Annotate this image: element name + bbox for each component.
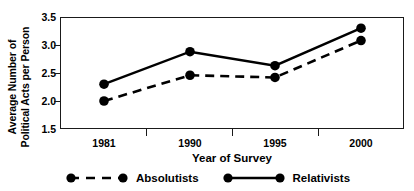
legend-item-relativists: Relativists bbox=[221, 171, 351, 185]
x-tick-mark-1 bbox=[146, 129, 147, 136]
y-tick-label-3: 2.5 bbox=[30, 68, 56, 79]
relativists-point-1990 bbox=[185, 47, 195, 57]
absolutists-point-2000 bbox=[356, 36, 366, 46]
absolutists-point-1995 bbox=[270, 73, 280, 83]
legend-dashed-line-swatch bbox=[64, 171, 130, 185]
y-axis-title-line-1: Average Number of bbox=[6, 17, 19, 157]
plot-series-layer bbox=[60, 17, 404, 129]
legend-item-absolutists: Absolutists bbox=[64, 171, 199, 185]
legend-label-absolutists: Absolutists bbox=[136, 172, 199, 184]
x-tick-mark-2 bbox=[232, 129, 233, 136]
x-tick-label-2000: 2000 bbox=[326, 137, 396, 149]
legend-solid-line-swatch bbox=[221, 171, 287, 185]
relativists-point-1995 bbox=[270, 61, 280, 71]
x-tick-label-1990: 1990 bbox=[155, 137, 225, 149]
y-tick-label-5: 3.5 bbox=[30, 12, 56, 23]
x-tick-mark-3 bbox=[318, 129, 319, 136]
relativists-point-2000 bbox=[356, 23, 366, 33]
relativists-point-1981 bbox=[99, 79, 109, 89]
line-chart-figure: Average Number of Political Acts per Per… bbox=[0, 0, 414, 191]
x-axis-title: Year of Survey bbox=[60, 152, 404, 164]
x-tick-label-1995: 1995 bbox=[240, 137, 310, 149]
absolutists-point-1990 bbox=[185, 70, 195, 80]
y-axis-tick-labels: 1.5 2.0 2.5 3.0 3.5 bbox=[28, 0, 56, 191]
chart-legend: Absolutists Relativists bbox=[0, 168, 414, 188]
absolutists-point-1981 bbox=[99, 96, 109, 106]
y-tick-label-2: 2.0 bbox=[30, 96, 56, 107]
y-tick-label-4: 3.0 bbox=[30, 40, 56, 51]
x-tick-label-1981: 1981 bbox=[69, 137, 139, 149]
y-tick-label-1: 1.5 bbox=[30, 124, 56, 135]
legend-label-relativists: Relativists bbox=[293, 172, 351, 184]
